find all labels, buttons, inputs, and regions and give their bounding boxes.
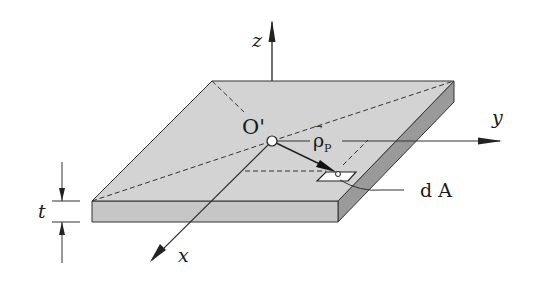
plate-diagram: z y x O' ρ P → d A t xyxy=(0,0,542,284)
y-arrowhead-icon xyxy=(478,138,502,145)
vector-arrow-icon: → xyxy=(314,121,323,132)
plate xyxy=(92,81,454,222)
rho-subscript: P xyxy=(324,142,332,155)
thickness-label: t xyxy=(38,200,46,222)
x-arrowhead-icon xyxy=(150,244,166,262)
rho-label: ρ xyxy=(313,129,324,151)
z-axis-label: z xyxy=(251,29,263,51)
origin-point xyxy=(267,136,277,146)
thickness-dimension xyxy=(52,162,80,263)
y-axis-label: y xyxy=(491,106,503,128)
z-arrowhead-icon xyxy=(269,20,276,42)
origin-label: O' xyxy=(242,115,265,139)
dim-arrow-up-icon xyxy=(59,222,65,235)
x-axis-label: x xyxy=(178,244,189,266)
plate-front-face xyxy=(92,201,338,222)
dim-arrow-down-icon xyxy=(59,188,65,201)
dA-label: d A xyxy=(420,179,452,201)
